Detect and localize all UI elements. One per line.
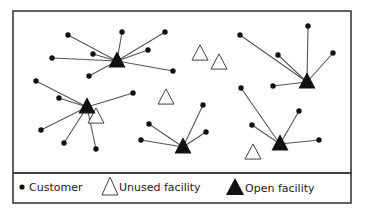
customer-node xyxy=(203,129,208,134)
customer-node xyxy=(238,85,243,90)
assignment-edge xyxy=(149,124,183,147)
customer-node xyxy=(270,83,275,88)
open-facility-node xyxy=(175,137,192,153)
customer-node xyxy=(119,29,124,34)
customer-node xyxy=(90,51,95,56)
customer-dot-icon xyxy=(19,184,24,189)
customer-node xyxy=(170,68,175,73)
assignment-edge xyxy=(87,93,133,107)
assignment-edge xyxy=(241,88,280,144)
customer-node xyxy=(162,29,167,34)
customer-node xyxy=(38,127,43,132)
legend-label-customer: Customer xyxy=(29,181,83,194)
customer-node xyxy=(93,146,98,151)
open-facility-triangle-icon xyxy=(226,178,244,195)
customer-node xyxy=(49,55,54,60)
customer-node xyxy=(65,32,70,37)
customer-node xyxy=(61,140,66,145)
assignment-edge xyxy=(280,111,299,144)
unused-facility-node xyxy=(211,54,227,69)
customer-node xyxy=(138,137,143,142)
unused-facility-node xyxy=(245,144,261,159)
assignment-edge xyxy=(117,61,173,71)
unused-facility-triangle-icon xyxy=(102,177,118,195)
legend: Customer Unused facility Open facility xyxy=(19,177,315,195)
customer-node xyxy=(33,78,38,83)
assignment-edge xyxy=(307,53,333,82)
customer-node xyxy=(275,52,280,57)
customer-node xyxy=(237,32,242,37)
customer-node xyxy=(130,90,135,95)
assignment-edge xyxy=(117,32,165,61)
assignment-edge xyxy=(240,35,307,82)
facility-location-diagram: Customer Unused facility Open facility xyxy=(0,0,366,216)
customer-node xyxy=(330,50,335,55)
assignment-edge xyxy=(36,81,87,107)
customer-node xyxy=(200,102,205,107)
legend-label-open-facility: Open facility xyxy=(245,182,315,195)
assignment-edge xyxy=(141,140,183,147)
customer-node xyxy=(249,122,254,127)
assignment-edges xyxy=(36,26,333,149)
assignment-edge xyxy=(252,125,280,144)
unused-facility-node xyxy=(158,89,174,104)
open-facility-node xyxy=(272,134,289,150)
unused-facility-node xyxy=(192,45,208,60)
customer-node xyxy=(316,137,321,142)
customer-node xyxy=(146,121,151,126)
customer-node xyxy=(145,47,150,52)
assignment-edge xyxy=(278,55,307,82)
customer-node xyxy=(296,108,301,113)
customers xyxy=(33,23,335,151)
legend-label-unused-facility: Unused facility xyxy=(119,181,201,194)
customer-node xyxy=(305,23,310,28)
customer-node xyxy=(86,73,91,78)
assignment-edge xyxy=(68,35,117,61)
customer-node xyxy=(56,95,61,100)
assignment-edge xyxy=(280,140,319,144)
